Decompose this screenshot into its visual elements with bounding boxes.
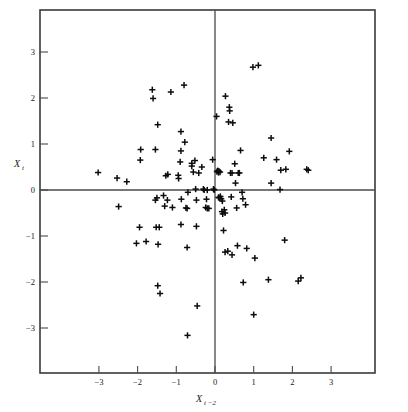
x-tick-label: −3	[94, 377, 103, 387]
x-axis-label-main: X	[195, 393, 203, 404]
x-tick-label: 2	[290, 377, 294, 387]
y-axis-label-main: X	[13, 158, 21, 169]
y-tick-label: −1	[26, 231, 35, 241]
y-tick-label: −3	[26, 323, 35, 333]
scatter-plot-figure: −3−2−10123 3210−1−2−3 X t −2 X t	[0, 0, 408, 412]
x-tick-label: −2	[133, 377, 142, 387]
x-tick-label: 3	[329, 377, 333, 387]
y-tick-label: 0	[31, 185, 35, 195]
y-tick-label: 3	[31, 47, 35, 57]
x-tick-label: 0	[213, 377, 217, 387]
y-axis-label-subscript: t	[22, 164, 25, 172]
x-tick-label: −1	[172, 377, 181, 387]
y-tick-label: −2	[26, 277, 35, 287]
y-tick-label: 2	[31, 93, 35, 103]
x-tick-label: 1	[252, 377, 256, 387]
plot-svg: −3−2−10123 3210−1−2−3 X t −2 X t	[0, 0, 408, 412]
y-axis-label: X t	[13, 158, 25, 172]
x-axis-label: X t −2	[195, 393, 216, 407]
y-tick-label: 1	[31, 139, 35, 149]
x-axis-label-subscript: t −2	[204, 399, 216, 407]
